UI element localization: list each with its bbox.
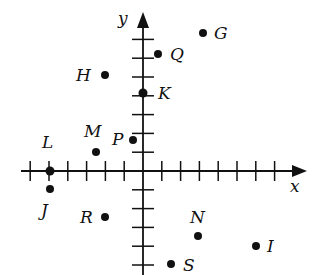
point-R-label: R xyxy=(79,207,93,227)
point-P-dot xyxy=(129,136,137,144)
point-R-dot xyxy=(101,213,109,221)
point-Q-label: Q xyxy=(170,44,184,64)
point-G-label: G xyxy=(214,23,228,43)
point-H: H xyxy=(75,65,109,85)
point-I: I xyxy=(252,236,274,256)
point-P-label: P xyxy=(111,129,124,149)
point-K-dot xyxy=(139,89,148,98)
point-J-label: J xyxy=(38,200,49,220)
point-H-label: H xyxy=(75,65,92,85)
point-G-dot xyxy=(199,29,207,37)
point-I-dot xyxy=(252,242,260,250)
point-P: P xyxy=(111,129,137,149)
point-N-label: N xyxy=(189,207,206,227)
point-L-label: L xyxy=(41,132,53,152)
point-N-dot xyxy=(194,232,202,240)
point-S-label: S xyxy=(183,255,195,275)
y-axis-label: y xyxy=(117,8,128,28)
point-J: J xyxy=(38,185,54,220)
coordinate-plane: x y G Q H K P M L J R N xyxy=(0,0,317,275)
point-L: L xyxy=(41,132,55,176)
point-M: M xyxy=(83,121,102,156)
point-S: S xyxy=(167,255,195,275)
point-N: N xyxy=(189,207,206,240)
point-G: G xyxy=(199,23,228,43)
point-J-dot xyxy=(46,185,54,193)
point-R: R xyxy=(79,207,109,227)
x-axis-label: x xyxy=(290,176,300,196)
point-I-label: I xyxy=(266,236,274,256)
point-M-dot xyxy=(92,148,100,156)
point-Q-dot xyxy=(154,50,162,58)
x-axis: x xyxy=(21,161,307,196)
point-L-dot xyxy=(46,167,55,176)
y-axis-arrow-icon xyxy=(137,12,149,28)
point-M-label: M xyxy=(83,121,102,141)
point-Q: Q xyxy=(154,44,184,64)
point-S-dot xyxy=(167,260,175,268)
point-K-label: K xyxy=(157,83,172,103)
point-H-dot xyxy=(101,71,109,79)
